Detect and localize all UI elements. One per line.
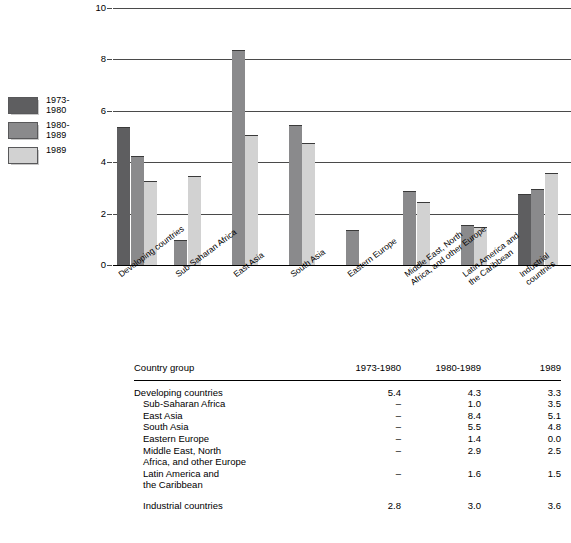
table-cell-value-3: 0.0 xyxy=(481,433,561,445)
table-cell-value-3: 1.5 xyxy=(481,468,561,491)
table-cell-value-2: 8.4 xyxy=(401,410,481,422)
bar xyxy=(346,230,359,266)
y-axis-tick xyxy=(107,8,112,9)
table-row: Eastern Europe–1.40.0 xyxy=(134,433,561,445)
gridline xyxy=(113,8,571,9)
col-header-1973-1980: 1973-1980 xyxy=(321,362,401,380)
legend-swatch-1980-1989 xyxy=(8,122,38,139)
table-gap-row xyxy=(134,491,561,500)
bar xyxy=(131,156,144,267)
y-axis-tick xyxy=(107,162,112,163)
y-axis-tick-label: 10 xyxy=(95,3,106,13)
chart-legend: 1973- 1980 1980- 1989 1989 xyxy=(8,96,98,171)
table-cell-value-1: 5.4 xyxy=(321,387,401,399)
y-axis-tick-label: 6 xyxy=(101,106,106,116)
table-cell-country-group: Middle East, North Africa, and other Eur… xyxy=(134,445,321,468)
y-axis-tick-label: 4 xyxy=(101,157,106,167)
figure-page: 1973- 1980 1980- 1989 1989 0246810 Devel… xyxy=(0,0,571,543)
table-cell-value-2: 1.6 xyxy=(401,468,481,491)
table-cell-value-2: 4.3 xyxy=(401,387,481,399)
legend-item: 1980- 1989 xyxy=(8,121,98,140)
gridline xyxy=(113,111,571,112)
table-cell-value-2: 2.9 xyxy=(401,445,481,468)
table-cell-value-1: 2.8 xyxy=(321,500,401,512)
legend-item: 1989 xyxy=(8,146,98,165)
bar xyxy=(403,191,416,266)
table-cell-value-3: 2.5 xyxy=(481,445,561,468)
y-axis-tick-label: 8 xyxy=(101,55,106,65)
table-cell-value-1: – xyxy=(321,398,401,410)
y-axis-tick xyxy=(107,111,112,112)
table-body: Developing countries5.44.33.3Sub-Saharan… xyxy=(134,380,561,512)
y-axis-tick xyxy=(107,265,112,266)
table-cell-value-1: – xyxy=(321,445,401,468)
table-cell-value-2: 1.0 xyxy=(401,398,481,410)
table-cell-country-group: Developing countries xyxy=(134,387,321,399)
table-cell-value-2: 5.5 xyxy=(401,421,481,433)
legend-label: 1973- 1980 xyxy=(46,96,70,115)
table-row: South Asia–5.54.8 xyxy=(134,421,561,433)
bar xyxy=(302,143,315,266)
gridline xyxy=(113,214,571,215)
table-row: Latin America and the Caribbean–1.61.5 xyxy=(134,468,561,491)
col-header-1980-1989: 1980-1989 xyxy=(401,362,481,380)
table-cell-value-3: 3.6 xyxy=(481,500,561,512)
y-axis-tick xyxy=(107,59,112,60)
table-cell-value-1: – xyxy=(321,421,401,433)
bar xyxy=(518,194,531,266)
gridline xyxy=(113,59,571,60)
table-cell-value-3: 5.1 xyxy=(481,410,561,422)
table-cell-country-group: South Asia xyxy=(134,421,321,433)
table-cell-country-group: Latin America and the Caribbean xyxy=(134,468,321,491)
table-cell-value-2: 3.0 xyxy=(401,500,481,512)
table-head: Country group 1973-1980 1980-1989 1989 xyxy=(134,362,561,380)
legend-label: 1980- 1989 xyxy=(46,121,70,140)
table-cell-country-group: Eastern Europe xyxy=(134,433,321,445)
table-row: Middle East, North Africa, and other Eur… xyxy=(134,445,561,468)
table-cell-country-group: East Asia xyxy=(134,410,321,422)
legend-swatch-1989 xyxy=(8,147,38,164)
bar xyxy=(245,135,258,266)
table-header-row: Country group 1973-1980 1980-1989 1989 xyxy=(134,362,561,380)
bar xyxy=(289,125,302,266)
table-cell-country-group: Industrial countries xyxy=(134,500,321,512)
table-row: East Asia–8.45.1 xyxy=(134,410,561,422)
bar xyxy=(117,127,130,266)
table-row: Industrial countries2.83.03.6 xyxy=(134,500,561,512)
table-cell-value-3: 3.5 xyxy=(481,398,561,410)
y-axis-tick xyxy=(107,214,112,215)
table-cell-value-2: 1.4 xyxy=(401,433,481,445)
table-row: Developing countries5.44.33.3 xyxy=(134,387,561,399)
col-header-country-group: Country group xyxy=(134,362,321,380)
legend-item: 1973- 1980 xyxy=(8,96,98,115)
y-axis-tick-label: 0 xyxy=(101,260,106,270)
table-cell-value-1: – xyxy=(321,433,401,445)
table-cell-value-3: 4.8 xyxy=(481,421,561,433)
table-cell-country-group: Sub-Saharan Africa xyxy=(134,398,321,410)
table-cell-value-1: – xyxy=(321,410,401,422)
gridline xyxy=(113,162,571,163)
table-row: Sub-Saharan Africa–1.03.5 xyxy=(134,398,561,410)
y-axis-tick-label: 2 xyxy=(101,209,106,219)
table-cell-value-1: – xyxy=(321,468,401,491)
legend-swatch-1973-1980 xyxy=(8,97,38,114)
table-cell-value-3: 3.3 xyxy=(481,387,561,399)
col-header-1989: 1989 xyxy=(481,362,561,380)
data-table: Country group 1973-1980 1980-1989 1989 D… xyxy=(134,362,561,512)
legend-label: 1989 xyxy=(46,146,66,156)
